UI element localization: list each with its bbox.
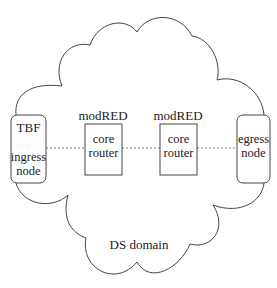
ingress-node-line1: ingress — [9, 150, 48, 164]
egress-node-label: egress node — [235, 132, 272, 161]
core-router-2-line1: core — [160, 132, 197, 146]
ingress-node-policy-label: TBF — [11, 121, 46, 136]
core-router-1-line2: router — [85, 146, 122, 160]
ds-domain-cloud — [16, 17, 264, 274]
ds-domain-label: DS domain — [99, 238, 179, 253]
core-router-1-label: core router — [85, 132, 122, 161]
core-router-2-line2: router — [160, 146, 197, 160]
ds-domain-diagram: TBF ingress node modRED core router modR… — [0, 0, 277, 288]
egress-node-line1: egress — [235, 132, 272, 146]
core-router-2-stereotype: modRED — [148, 109, 208, 124]
core-router-1-stereotype: modRED — [73, 109, 133, 124]
core-router-1-line1: core — [85, 132, 122, 146]
ingress-node-label: ingress node — [9, 150, 48, 179]
egress-node-line2: node — [235, 146, 272, 160]
ingress-node-line2: node — [9, 164, 48, 178]
core-router-2-label: core router — [160, 132, 197, 161]
